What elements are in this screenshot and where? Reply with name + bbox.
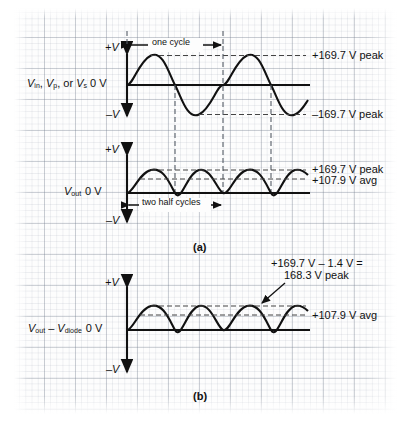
annotation-peak-negative-vin: –169.7 V peak [312, 109, 383, 121]
annotation-peak-panel-b-line1: +169.7 V – 1.4 V = [271, 258, 363, 270]
signal-label-b-vdiode-symbol: V [57, 322, 64, 334]
figure-root: +V –V Vin, Vp, or Vs0 V one cycle +169.7… [0, 0, 410, 429]
signal-label-b-vdiode-subscript: diode [65, 327, 82, 334]
signal-label-sep-2: , or [57, 77, 76, 89]
two-half-cycles-label: two half cycles [142, 198, 201, 207]
signal-label-b-vout-subscript: out [35, 327, 45, 334]
axis-label-minus-v-panel-b: –V [106, 364, 119, 376]
signal-label-vout-subscript: out [71, 190, 81, 197]
rectified-waveform-vout-minus-vdiode [127, 306, 308, 333]
rectified-waveform-vout [127, 170, 308, 196]
waveform-overlay [0, 0, 410, 429]
peak-annotation-leader-arrow [262, 283, 285, 303]
axis-label-zero-v-panel-b: 0 V [86, 322, 103, 334]
signal-label-vs-subscript: s [83, 82, 87, 89]
signal-label-b-minus: – [45, 322, 57, 334]
one-cycle-label: one cycle [152, 38, 190, 47]
axis-label-minus-v-top: –V [106, 109, 119, 121]
axis-label-zero-v-vout: 0 V [85, 185, 102, 197]
signal-label-vout-minus-vdiode: Vout – Vdiode0 V [28, 323, 102, 335]
signal-label-vin-vp-vs: Vin, Vp, or Vs0 V [27, 78, 106, 90]
caption-panel-a: (a) [193, 242, 206, 254]
signal-label-vout: Vout0 V [64, 186, 102, 198]
annotation-peak-panel-b-line2: 168.3 V peak [284, 270, 349, 282]
annotation-avg-vout: +107.9 V avg [312, 175, 377, 187]
axis-label-plus-v-vout: +V [105, 144, 119, 156]
axis-label-minus-v-vout: –V [106, 215, 119, 227]
annotation-avg-panel-b: +107.9 V avg [312, 310, 377, 322]
axis-label-plus-v-panel-b: +V [105, 277, 119, 289]
caption-panel-b: (b) [193, 391, 207, 403]
axis-label-zero-v-top: 0 V [90, 77, 107, 89]
annotation-peak-positive-vin: +169.7 V peak [312, 50, 383, 62]
axis-label-plus-v-top: +V [105, 42, 119, 54]
